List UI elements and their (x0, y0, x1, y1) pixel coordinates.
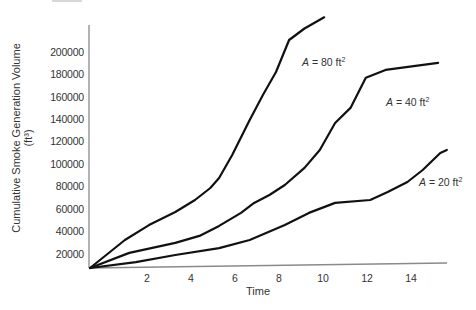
y-tick-label: 80000 (40, 180, 84, 192)
x-tick-label: 6 (232, 272, 238, 284)
y-tick-label: 40000 (40, 225, 84, 237)
x-tick-label: 2 (144, 272, 150, 284)
curve-label-sup: 2 (341, 56, 345, 63)
x-tick-label: 4 (188, 272, 194, 284)
x-tick-label: 8 (276, 272, 282, 284)
y-tick-label: 120000 (40, 135, 84, 147)
curve-a80 (90, 17, 324, 268)
x-axis (89, 263, 447, 268)
y-axis-title: Cumulative Smoke Generation Volume (ft³) (10, 43, 34, 233)
y-tick-label: 60000 (40, 203, 84, 215)
curve-label-a40: A = 40 ft2 (386, 96, 429, 108)
y-tick-label: 180000 (40, 68, 84, 80)
x-tick-label: 10 (317, 272, 329, 284)
curve-label-var: A (419, 176, 426, 188)
curve-label-text: = 80 ft (309, 56, 341, 68)
curve-label-var: A (386, 96, 393, 108)
curve-label-sup: 2 (458, 176, 462, 183)
curve-label-text: = 20 ft (426, 176, 458, 188)
series-layer (90, 17, 447, 268)
y-axis-title-unit: (ft³) (22, 43, 34, 233)
curve-label-sup: 2 (425, 96, 429, 103)
x-axis-title: Time (246, 285, 270, 297)
x-tick-label: 14 (405, 272, 417, 284)
x-tick-label: 12 (361, 272, 373, 284)
curve-label-a20: A = 20 ft2 (419, 176, 462, 188)
curve-label-text: = 40 ft (393, 96, 425, 108)
curve-label-var: A (302, 56, 309, 68)
y-tick-label: 140000 (40, 113, 84, 125)
y-tick-label: 20000 (40, 248, 84, 260)
y-axis-title-main: Cumulative Smoke Generation Volume (10, 43, 22, 233)
y-tick-label: 100000 (40, 158, 84, 170)
y-tick-label: 200000 (40, 46, 84, 58)
curve-label-a80: A = 80 ft2 (302, 56, 345, 68)
y-tick-label: 160000 (40, 91, 84, 103)
